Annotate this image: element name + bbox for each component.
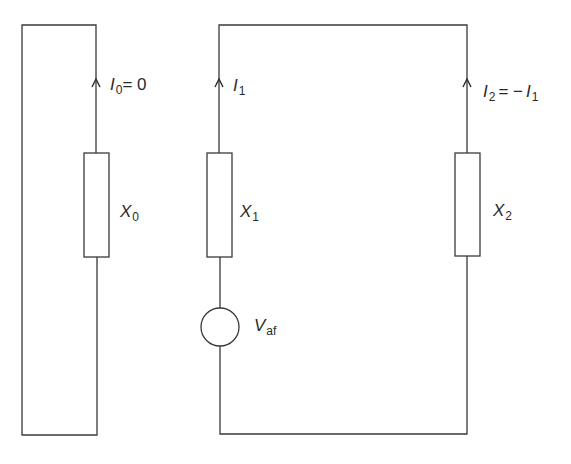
circuit-diagram [0, 0, 571, 464]
impedance-label-x0: X0 [120, 203, 139, 223]
impedance-x0 [84, 153, 109, 257]
zero-sequence-loop [22, 25, 109, 435]
current-label-i2: I2= −I1 [483, 83, 538, 103]
impedance-x2 [455, 153, 480, 256]
source-label-vaf: Vaf [254, 317, 276, 337]
current-label-i0: I0= 0 [110, 76, 147, 96]
impedance-x1 [207, 153, 232, 257]
impedance-label-x1: X1 [240, 203, 259, 223]
main-loop-wire [219, 25, 467, 434]
impedance-label-x2: X2 [493, 202, 512, 222]
voltage-source-vaf [201, 308, 239, 346]
current-label-i1: I1 [233, 77, 245, 97]
